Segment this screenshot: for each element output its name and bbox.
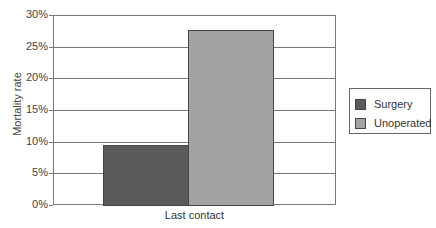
- y-tick-mark: [49, 205, 53, 206]
- y-tick-label: 0%: [0, 198, 48, 210]
- legend-item-unoperated: Unoperated: [355, 116, 432, 130]
- legend-swatch-unoperated: [355, 118, 366, 129]
- x-category-label: Last contact: [53, 209, 336, 221]
- legend-swatch-surgery: [355, 99, 366, 110]
- legend-item-surgery: Surgery: [355, 97, 413, 111]
- bar-unoperated: [188, 30, 274, 206]
- legend-label-unoperated: Unoperated: [374, 117, 432, 129]
- y-tick-label: 25%: [0, 40, 48, 52]
- legend: Surgery Unoperated: [349, 88, 431, 134]
- y-tick-label: 5%: [0, 166, 48, 178]
- legend-label-surgery: Surgery: [374, 98, 413, 110]
- y-tick-label: 10%: [0, 135, 48, 147]
- bar-surgery: [103, 145, 189, 206]
- y-tick-label: 20%: [0, 71, 48, 83]
- y-tick-label: 30%: [0, 8, 48, 20]
- y-tick-label: 15%: [0, 103, 48, 115]
